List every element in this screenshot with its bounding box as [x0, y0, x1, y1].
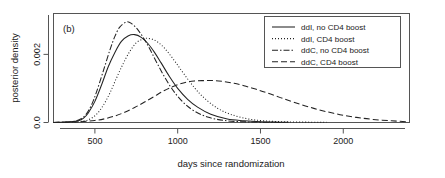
y-axis-title: posterior density — [9, 33, 20, 103]
x-tick-labels: 500100015002000 — [87, 136, 353, 146]
y-tick-labels: 0.00.002 — [32, 43, 42, 129]
legend: ddI, no CD4 boostddI, CD4 boostddC, no C… — [265, 17, 401, 68]
series-line-3 — [54, 81, 408, 123]
legend-label-2: ddC, no CD4 boost — [301, 46, 370, 55]
y-tick-label: 0.0 — [32, 116, 42, 129]
x-tick-label: 1500 — [250, 136, 270, 146]
x-tick-marks — [95, 129, 343, 134]
chart-svg: 0.00.002 posterior density 5001000150020… — [0, 0, 445, 178]
x-tick-label: 1000 — [168, 136, 188, 146]
legend-label-0: ddI, no CD4 boost — [301, 23, 366, 32]
x-axis: 500100015002000 days since randomization — [60, 129, 405, 170]
legend-label-3: ddC, CD4 boost — [301, 58, 359, 67]
x-axis-title: days since randomization — [177, 158, 284, 169]
y-tick-label: 0.002 — [32, 43, 42, 66]
legend-label-1: ddI, CD4 boost — [301, 35, 355, 44]
series-line-0 — [54, 35, 289, 123]
y-tick-marks — [44, 54, 49, 122]
x-tick-label: 2000 — [333, 136, 353, 146]
series-line-2 — [54, 22, 286, 123]
y-axis: 0.00.002 posterior density — [9, 15, 49, 129]
panel-label: (b) — [63, 23, 75, 34]
figure-container: 0.00.002 posterior density 5001000150020… — [0, 0, 445, 178]
x-tick-label: 500 — [87, 136, 102, 146]
